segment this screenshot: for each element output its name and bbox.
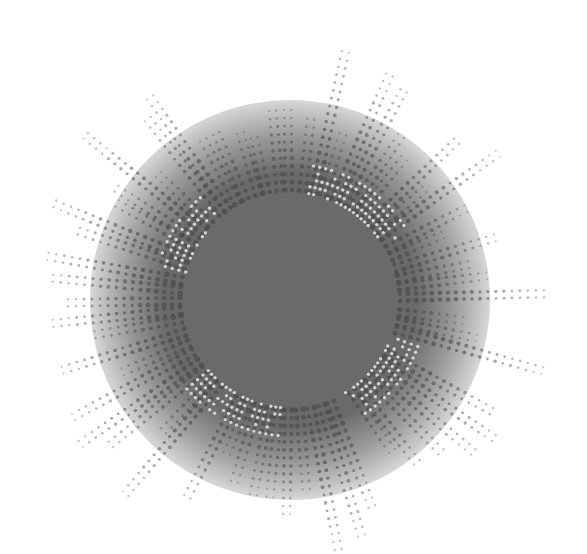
halftone-burst-artwork [0,0,587,554]
halftone-dot-rays [0,0,587,554]
